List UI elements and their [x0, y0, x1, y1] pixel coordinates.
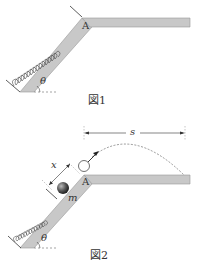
ball-launch-position: [79, 161, 90, 172]
fig2-horizontal-track: [84, 175, 190, 184]
fig1-point-a-label: A: [82, 21, 89, 31]
figure1-drawing: [6, 6, 190, 92]
fig2-angle-theta-label: θ: [41, 233, 47, 243]
fig1-horizontal-track: [82, 18, 190, 27]
fig2-caption: 図2: [90, 250, 108, 261]
mass-m-label: m: [68, 193, 77, 203]
fig2-point-a-label: A: [82, 177, 89, 187]
fig1-angle-theta-label: θ: [40, 76, 46, 86]
distance-s-label: s: [130, 127, 135, 137]
fig1-caption: 図1: [88, 95, 106, 106]
figure2-drawing: [8, 126, 190, 248]
velocity-arrow: [88, 154, 96, 162]
diagram-canvas: [0, 0, 197, 270]
compression-x-label: x: [51, 160, 57, 170]
trajectory-dashed: [92, 144, 184, 175]
